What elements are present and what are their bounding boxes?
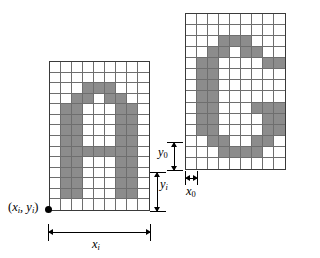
grid-cell — [219, 114, 230, 125]
grid-cell — [105, 62, 116, 73]
grid-cell — [83, 83, 94, 94]
grid-cell — [208, 114, 219, 125]
grid-cell — [263, 36, 274, 47]
grid-cell — [197, 158, 208, 169]
grid-cell — [219, 125, 230, 136]
grid-cell — [241, 80, 252, 91]
grid-cell — [241, 36, 252, 47]
grid-cell — [186, 80, 197, 91]
grid-cell — [72, 73, 83, 84]
grid-cell — [208, 47, 219, 58]
grid-cell — [219, 147, 230, 158]
grid-cell — [219, 47, 230, 58]
grid-cell — [197, 136, 208, 147]
grid-cell — [197, 47, 208, 58]
grid-cell — [61, 147, 72, 158]
grid-cell — [197, 103, 208, 114]
grid-cell — [138, 94, 149, 105]
grid-cell — [72, 104, 83, 115]
grid-cell — [197, 125, 208, 136]
grid-cell — [50, 104, 61, 115]
grid-cell — [219, 80, 230, 91]
yi-subscript: i — [166, 182, 168, 192]
grid-cell — [263, 125, 274, 136]
grid-cell — [94, 147, 105, 158]
y0-arrowhead-down-icon — [171, 166, 177, 171]
grid-cell — [241, 58, 252, 69]
grid-cell — [208, 125, 219, 136]
grid-cell — [116, 94, 127, 105]
grid-cell — [197, 58, 208, 69]
right-character-grid — [185, 13, 286, 170]
grid-cell — [116, 115, 127, 126]
grid-cell — [197, 147, 208, 158]
grid-cell — [138, 115, 149, 126]
grid-cell — [230, 47, 241, 58]
grid-cell — [219, 158, 230, 169]
grid-cell — [219, 91, 230, 102]
grid-cell — [127, 83, 138, 94]
grid-cell — [219, 136, 230, 147]
grid-cell — [127, 178, 138, 189]
grid-cell — [208, 158, 219, 169]
grid-cell — [241, 158, 252, 169]
grid-cell — [241, 147, 252, 158]
origin-point-marker — [45, 206, 52, 213]
grid-cell — [83, 104, 94, 115]
grid-cell — [263, 136, 274, 147]
grid-cell — [252, 14, 263, 25]
grid-cell — [274, 58, 285, 69]
xi-label: xi — [92, 238, 100, 252]
y0-label: y0 — [158, 146, 168, 160]
grid-cell — [72, 125, 83, 136]
grid-cell — [263, 114, 274, 125]
grid-cell — [72, 199, 83, 210]
grid-cell — [186, 136, 197, 147]
grid-cell — [274, 147, 285, 158]
grid-cell — [230, 80, 241, 91]
grid-cell — [127, 157, 138, 168]
grid-cell — [252, 80, 263, 91]
grid-cell — [186, 158, 197, 169]
grid-cell — [50, 73, 61, 84]
grid-cell — [138, 147, 149, 158]
xi-dimension-line — [48, 232, 151, 233]
grid-cell — [138, 62, 149, 73]
grid-cell — [186, 91, 197, 102]
grid-cell — [230, 58, 241, 69]
grid-cell — [138, 104, 149, 115]
grid-cell — [127, 199, 138, 210]
origin-close-paren: ) — [34, 200, 38, 214]
grid-cell — [197, 69, 208, 80]
grid-cell — [197, 25, 208, 36]
grid-cell — [105, 83, 116, 94]
grid-cell — [83, 73, 94, 84]
grid-cell — [274, 103, 285, 114]
grid-cell — [230, 69, 241, 80]
grid-cell — [208, 80, 219, 91]
grid-cell — [83, 115, 94, 126]
grid-cell — [61, 157, 72, 168]
grid-cell — [127, 62, 138, 73]
grid-cell — [116, 136, 127, 147]
grid-cell — [83, 189, 94, 200]
grid-cell — [105, 199, 116, 210]
grid-cell — [116, 62, 127, 73]
grid-cell — [105, 94, 116, 105]
grid-cell — [138, 199, 149, 210]
grid-cell — [197, 14, 208, 25]
grid-cell — [241, 103, 252, 114]
grid-cell — [83, 136, 94, 147]
grid-cell — [94, 157, 105, 168]
grid-cell — [72, 83, 83, 94]
grid-cell — [105, 189, 116, 200]
grid-cell — [105, 136, 116, 147]
grid-cell — [94, 189, 105, 200]
grid-cell — [274, 69, 285, 80]
grid-cell — [186, 103, 197, 114]
grid-cell — [94, 73, 105, 84]
grid-cell — [241, 69, 252, 80]
grid-cell — [127, 189, 138, 200]
grid-cell — [72, 157, 83, 168]
grid-cell — [50, 83, 61, 94]
